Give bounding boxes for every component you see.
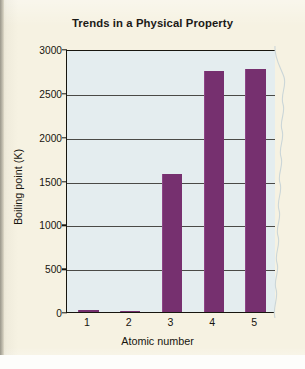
- y-axis-tick-label: 3000: [18, 45, 62, 56]
- y-axis-tick-label: 2000: [18, 132, 62, 143]
- scanned-page: Trends in a Physical Property Boiling po…: [0, 0, 305, 369]
- bar: [162, 174, 182, 312]
- y-axis-tick-label: 0: [18, 308, 62, 319]
- y-axis-tick-label: 2500: [18, 88, 62, 99]
- x-axis-tick-label: 5: [251, 316, 257, 328]
- x-axis-tick-label: 1: [84, 316, 90, 328]
- chart-title: Trends in a Physical Property: [0, 17, 305, 29]
- bar: [78, 310, 98, 312]
- scan-edge-bottom: [0, 355, 305, 369]
- plot-area: [66, 50, 275, 313]
- bar-chart-figure: Trends in a Physical Property Boiling po…: [0, 0, 305, 369]
- bar-series: [67, 51, 275, 312]
- y-axis-tick-label: 500: [18, 264, 62, 275]
- bar: [204, 71, 224, 312]
- y-axis-tick-label: 1500: [18, 176, 62, 187]
- y-axis-ticks: 050010001500200025003000: [14, 50, 62, 313]
- bar: [245, 69, 265, 312]
- y-axis-tick-label: 1000: [18, 220, 62, 231]
- x-axis-tick-label: 3: [168, 316, 174, 328]
- x-axis-tick-label: 4: [209, 316, 215, 328]
- x-axis-tick-label: 2: [126, 316, 132, 328]
- x-axis-ticks: 12345: [66, 316, 275, 332]
- x-axis-title: Atomic number: [40, 335, 275, 347]
- bar: [120, 311, 140, 312]
